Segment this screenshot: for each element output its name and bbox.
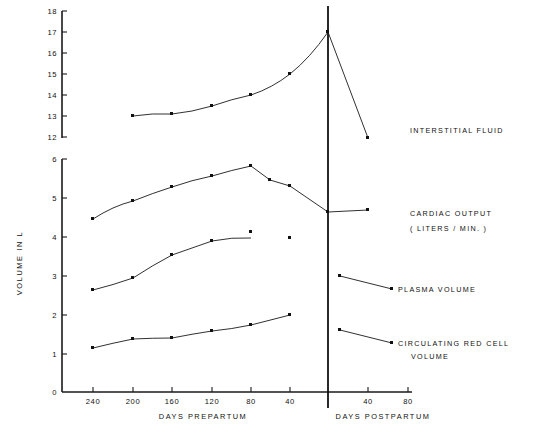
data-point: [249, 164, 252, 167]
xtick-pre-240: 240: [86, 397, 100, 406]
x-axis-label-postpartum: DAYS POSTPARTUM: [336, 412, 431, 421]
lower-ytick-5: 5: [52, 194, 57, 203]
upper-ytick-12: 12: [48, 133, 57, 142]
data-point: [210, 104, 213, 107]
data-point: [288, 313, 291, 316]
chart-svg: 18 17 16 15 14 13 12 6 5 4 3 2 1 0 240 2: [0, 0, 538, 441]
data-point: [131, 199, 134, 202]
leader-red-cell-volume: [338, 328, 393, 344]
data-point: [131, 337, 134, 340]
x-axis-label-prepartum: DAYS PREPARTUM: [159, 412, 247, 421]
data-point: [170, 336, 173, 339]
y-axis-title: VOLUME IN L: [15, 231, 24, 295]
data-point: [170, 253, 173, 256]
lower-ytick-6: 6: [52, 155, 57, 164]
data-point: [366, 208, 369, 211]
data-point: [131, 114, 134, 117]
label-red-cell-volume-line2: VOLUME: [411, 352, 449, 361]
xtick-pre-120: 120: [205, 397, 219, 406]
leader-plasma-volume: [338, 274, 393, 290]
lower-y-axis: 6 5 4 3 2 1 0: [52, 155, 67, 397]
data-point: [326, 210, 329, 213]
lower-ytick-3: 3: [52, 272, 57, 281]
label-plasma-volume: PLASMA VOLUME: [398, 285, 476, 294]
series-interstitial-fluid: [131, 30, 369, 139]
label-interstitial-fluid: INTERSTITIAL FLUID: [410, 126, 504, 135]
label-cardiac-output: CARDIAC OUTPUT: [410, 209, 492, 218]
lower-ytick-1: 1: [52, 350, 57, 359]
data-point: [249, 230, 252, 233]
upper-ytick-18: 18: [48, 7, 57, 16]
upper-ytick-14: 14: [48, 91, 57, 100]
data-point: [366, 136, 369, 139]
upper-y-axis: 18 17 16 15 14 13 12: [48, 7, 67, 142]
series-plasma-volume: [91, 230, 291, 291]
data-point: [91, 217, 94, 220]
xtick-pre-200: 200: [126, 397, 140, 406]
data-point: [268, 178, 271, 181]
leader-end-dot: [390, 287, 393, 290]
chart-figure: 18 17 16 15 14 13 12 6 5 4 3 2 1 0 240 2: [0, 0, 538, 441]
data-point: [288, 72, 291, 75]
x-axis: 240 200 160 120 80 40 40 80 DAYS PREPART…: [62, 387, 430, 421]
data-point: [326, 30, 329, 33]
leader-start-dot: [338, 328, 341, 331]
data-point: [210, 329, 213, 332]
data-point: [288, 184, 291, 187]
leader-end-dot: [390, 341, 393, 344]
lower-ytick-2: 2: [52, 311, 57, 320]
upper-ytick-16: 16: [48, 49, 57, 58]
data-point: [249, 323, 252, 326]
leader-start-dot: [338, 274, 341, 277]
data-point: [210, 239, 213, 242]
data-point: [170, 112, 173, 115]
data-point: [170, 185, 173, 188]
data-point: [91, 346, 94, 349]
xtick-post-80: 80: [403, 397, 413, 406]
label-cardiac-output-units: ( LITERS / MIN. ): [410, 224, 487, 233]
upper-ytick-17: 17: [48, 28, 57, 37]
lower-ytick-4: 4: [52, 233, 57, 242]
data-point: [210, 174, 213, 177]
data-point: [131, 276, 134, 279]
lower-ytick-0: 0: [52, 388, 57, 397]
data-point: [91, 288, 94, 291]
upper-ytick-13: 13: [48, 112, 57, 121]
xtick-pre-80: 80: [246, 397, 256, 406]
upper-ytick-15: 15: [48, 70, 57, 79]
data-point: [249, 93, 252, 96]
label-red-cell-volume-line1: CIRCULATING RED CELL: [398, 339, 509, 348]
data-point: [288, 236, 291, 239]
xtick-pre-160: 160: [165, 397, 179, 406]
xtick-pre-40: 40: [285, 397, 295, 406]
xtick-post-40: 40: [363, 397, 373, 406]
series-circulating-red-cell-volume: [91, 313, 291, 349]
